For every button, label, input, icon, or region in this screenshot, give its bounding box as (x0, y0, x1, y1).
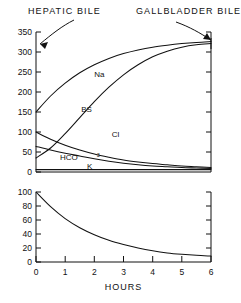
x-tick-6: 6 (209, 267, 214, 277)
x-tick-2: 2 (92, 267, 97, 277)
x-axis-label: HOURS (105, 282, 143, 292)
top-y-tick-250: 250 (18, 67, 32, 77)
x-tick-1: 1 (63, 267, 68, 277)
gallbladder-bile-label: GALLBLADDER BILE (136, 6, 241, 16)
bottom-y-tick-0: 0 (27, 257, 32, 267)
top-y-tick-0: 0 (27, 167, 32, 177)
series-label-hco3-text: HCO (60, 153, 78, 162)
hepatic-bile-label: HEPATIC BILE (28, 6, 101, 16)
bottom-y-tick-80: 80 (23, 201, 33, 211)
curve-bs (36, 44, 211, 158)
top-y-tick-200: 200 (18, 87, 32, 97)
bottom-chart: 100 80 60 40 20 0 0 1 2 3 4 5 6 HOURS (18, 187, 214, 292)
bottom-chart-x-ticks (36, 256, 211, 262)
top-y-tick-50: 50 (23, 147, 33, 157)
bottom-y-tick-60: 60 (23, 215, 33, 225)
top-chart: 350 300 250 200 150 100 50 0 Na BS Cl HC… (18, 27, 211, 177)
bile-composition-figure: HEPATIC BILE GALLBLADDER BILE (0, 0, 241, 303)
x-tick-5: 5 (179, 267, 184, 277)
top-y-tick-150: 150 (18, 107, 32, 117)
top-y-tick-350: 350 (18, 27, 32, 37)
top-y-tick-300: 300 (18, 47, 32, 57)
curve-na (36, 42, 211, 112)
series-label-na: Na (94, 70, 105, 79)
x-tick-0: 0 (34, 267, 39, 277)
top-chart-y-ticks (36, 32, 211, 172)
series-label-hco3-subscript: 3 (97, 152, 100, 158)
hepatic-bile-arrow (40, 20, 74, 49)
series-label-bs: BS (81, 105, 92, 114)
top-y-tick-100: 100 (18, 127, 32, 137)
x-tick-3: 3 (121, 267, 126, 277)
bottom-y-tick-40: 40 (23, 229, 33, 239)
x-tick-4: 4 (150, 267, 155, 277)
bottom-y-tick-20: 20 (23, 243, 33, 253)
bottom-chart-y-ticks (36, 192, 211, 262)
series-label-k: K (87, 162, 93, 171)
curve-volume (36, 192, 211, 256)
series-label-cl: Cl (112, 130, 120, 139)
bottom-y-tick-100: 100 (18, 187, 32, 197)
